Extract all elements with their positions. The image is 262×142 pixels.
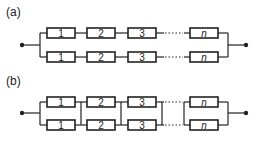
block-label: 3	[139, 28, 145, 39]
row-bottom: 1 2 3 n	[40, 52, 228, 63]
row-bottom: 1 2 3 n	[40, 120, 228, 131]
block-label: n	[201, 52, 207, 63]
diagram-canvas: (a) 1 2 3 n 1	[0, 0, 262, 142]
block-label: n	[201, 97, 207, 108]
output-terminal-icon	[244, 111, 248, 115]
block-label: 3	[139, 52, 145, 63]
block-label: 3	[139, 120, 145, 131]
block-label: 1	[58, 120, 64, 131]
block-label: 1	[58, 97, 64, 108]
block-label: 2	[98, 52, 104, 63]
block-label: 2	[98, 120, 104, 131]
block-label: 1	[58, 52, 64, 63]
block-label: n	[201, 28, 207, 39]
panel-b-label: (b)	[6, 74, 21, 88]
panel-a-label: (a)	[6, 5, 21, 19]
row-top: 1 2 3 n	[40, 97, 228, 108]
block-label: 3	[139, 97, 145, 108]
panel-a: (a) 1 2 3 n 1	[6, 5, 248, 63]
row-top: 1 2 3 n	[40, 28, 228, 39]
output-terminal-icon	[244, 43, 248, 47]
block-label: n	[201, 120, 207, 131]
block-label: 2	[98, 97, 104, 108]
block-label: 2	[98, 28, 104, 39]
block-label: 1	[58, 28, 64, 39]
panel-b: (b) 1 2 3 n 1 2	[6, 74, 248, 131]
